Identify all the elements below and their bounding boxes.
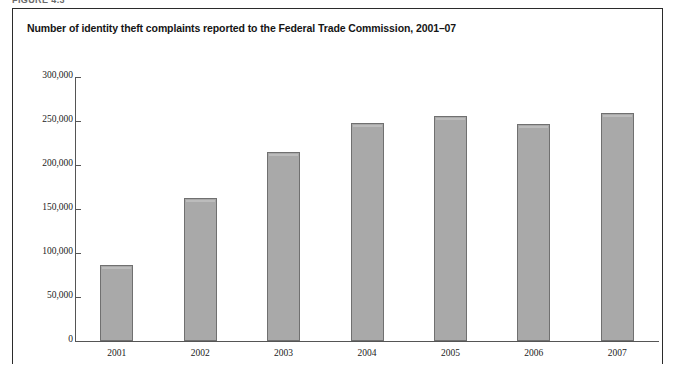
y-tick-label: 50,000 xyxy=(47,290,73,300)
y-tick-label: 100,000 xyxy=(42,246,73,256)
figure-caption: FIGURE 4.3 xyxy=(12,0,65,3)
bar-top-highlight xyxy=(186,200,215,202)
y-tick-mark xyxy=(76,341,81,342)
y-tick: 50,000 xyxy=(17,297,81,298)
bar-top-highlight xyxy=(519,126,548,128)
y-tick: 250,000 xyxy=(17,121,81,122)
bar-2001[interactable] xyxy=(100,265,133,341)
x-tick-label-2001: 2001 xyxy=(75,348,158,358)
y-tick: 0 xyxy=(17,341,81,342)
bar-2004[interactable] xyxy=(351,123,384,341)
y-tick-mark xyxy=(76,209,81,210)
y-tick-mark xyxy=(76,165,81,166)
bar-2005[interactable] xyxy=(434,116,467,341)
x-axis-line xyxy=(75,341,659,342)
x-tick-label-2004: 2004 xyxy=(325,348,408,358)
y-tick-label: 0 xyxy=(68,334,73,344)
bar-top-highlight xyxy=(603,115,632,117)
y-tick: 150,000 xyxy=(17,209,81,210)
chart-title: Number of identity theft complaints repo… xyxy=(27,22,456,34)
bar-top-highlight xyxy=(353,125,382,127)
y-tick: 300,000 xyxy=(17,77,81,78)
bar-2002[interactable] xyxy=(184,198,217,341)
bar-top-highlight xyxy=(436,118,465,120)
y-tick-label: 300,000 xyxy=(42,70,73,80)
y-tick-mark xyxy=(76,121,81,122)
y-tick: 100,000 xyxy=(17,253,81,254)
y-tick-label: 200,000 xyxy=(42,158,73,168)
bar-2003[interactable] xyxy=(267,152,300,341)
y-tick: 200,000 xyxy=(17,165,81,166)
bar-chart-plot-area: 050,000100,000150,000200,000250,000300,0… xyxy=(75,69,659,341)
bar-top-highlight xyxy=(269,154,298,156)
figure-box: Number of identity theft complaints repo… xyxy=(12,8,663,364)
x-tick-label-2003: 2003 xyxy=(242,348,325,358)
x-tick-label-2007: 2007 xyxy=(576,348,659,358)
y-tick-mark xyxy=(76,297,81,298)
x-tick-label-2005: 2005 xyxy=(409,348,492,358)
y-tick-mark xyxy=(76,77,81,78)
y-tick-mark xyxy=(76,253,81,254)
x-tick-label-2006: 2006 xyxy=(492,348,575,358)
bar-top-highlight xyxy=(102,267,131,269)
bar-2007[interactable] xyxy=(601,113,634,341)
x-tick-label-2002: 2002 xyxy=(158,348,241,358)
y-tick-label: 250,000 xyxy=(42,114,73,124)
bar-2006[interactable] xyxy=(517,124,550,341)
y-tick-label: 150,000 xyxy=(42,202,73,212)
